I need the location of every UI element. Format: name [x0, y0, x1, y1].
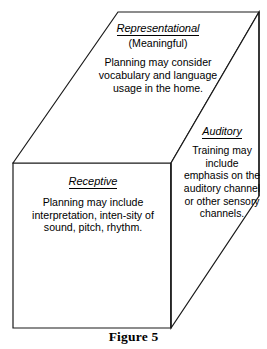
receptive-body-text: Planning may include interpretation, int… [20, 196, 166, 234]
figure-caption: Figure 5 [0, 329, 267, 345]
auditory-body-text: Training may include emphasis on the aud… [182, 145, 262, 221]
representational-subheading: (Meaningful) [97, 37, 219, 49]
receptive-heading: Receptive [69, 175, 118, 189]
representational-heading-wrap: Representational [97, 18, 219, 36]
receptive-heading-wrap: Receptive [20, 171, 166, 189]
representational-body-text: Planning may consider vocabulary and lan… [97, 56, 219, 94]
face-label-representational: Representational (Meaningful) Planning m… [97, 18, 219, 94]
auditory-heading: Auditory [202, 125, 242, 139]
face-label-auditory: Auditory Training may include emphasis o… [182, 121, 262, 221]
representational-heading: Representational [117, 22, 200, 36]
face-label-receptive: Receptive Planning may include interpret… [20, 171, 166, 234]
auditory-heading-wrap: Auditory [182, 121, 262, 139]
figure-container: Representational (Meaningful) Planning m… [0, 0, 267, 349]
